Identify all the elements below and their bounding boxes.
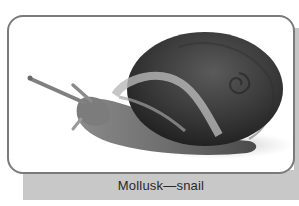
snail-shell [127,32,283,146]
caption-bar: Mollusk—snail [23,170,299,200]
tentacle-upper-left [31,79,85,103]
photo-frame [7,15,295,174]
eye-left [28,76,33,81]
tentacle-lower [73,119,81,129]
snail-image [9,17,293,172]
caption-text: Mollusk—snail [23,178,299,193]
